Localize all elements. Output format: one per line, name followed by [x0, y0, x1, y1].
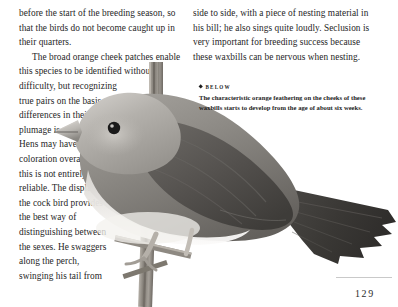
right-text-column: side to side, with a piece of nesting ma…	[193, 6, 371, 64]
page-number: 129	[355, 288, 375, 299]
left-text-column: before the start of the breeding season,…	[19, 6, 189, 283]
paragraph-continued-left: before the start of the breeding season,…	[19, 6, 189, 50]
paragraph-sexing-wrapped: true pairs on the basis of differences i…	[19, 94, 115, 284]
caption-body: The characteristic orange feathering on …	[199, 93, 371, 113]
caption-label: BELOW	[205, 84, 231, 90]
folio-rule	[336, 277, 392, 278]
paragraph-cheek-patches: The broad orange cheek patches enable th…	[19, 50, 189, 94]
paragraph-continued-right: side to side, with a piece of nesting ma…	[193, 6, 371, 64]
figure-caption: BELOW The characteristic orange featheri…	[199, 84, 371, 113]
diamond-bullet-icon	[198, 85, 203, 90]
caption-header: BELOW	[199, 84, 371, 90]
bird-tail	[280, 187, 396, 264]
book-page: before the start of the breeding season,…	[0, 0, 398, 307]
